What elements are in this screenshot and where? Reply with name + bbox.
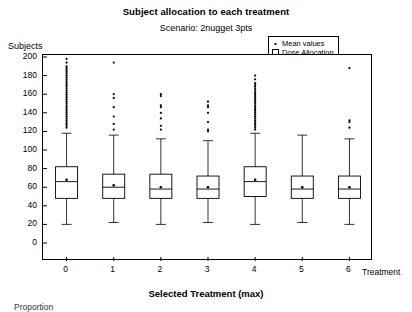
x-tick-6: 6 <box>338 264 358 274</box>
box-3 <box>197 101 219 223</box>
x-tick-2: 2 <box>150 264 170 274</box>
legend-label-mean: Mean values <box>282 39 325 48</box>
x-tick-3: 3 <box>197 264 217 274</box>
y-tick-0: 0 <box>13 237 37 247</box>
x-tick-0: 0 <box>56 264 76 274</box>
y-tick-60: 60 <box>13 181 37 191</box>
box-1 <box>103 61 125 222</box>
x-tick-5: 5 <box>291 264 311 274</box>
y-tick-200: 200 <box>13 51 37 61</box>
box-0 <box>56 58 78 225</box>
y-tick-40: 40 <box>13 200 37 210</box>
mean-dot-icon: • <box>272 40 279 48</box>
y-tick-140: 140 <box>13 107 37 117</box>
x-tick-4: 4 <box>244 264 264 274</box>
chart-title: Subject allocation to each treatment <box>0 6 412 17</box>
footnote: Proportion <box>14 302 53 312</box>
plot-area <box>42 54 372 260</box>
boxplot-svg <box>43 55 373 261</box>
box-2 <box>150 93 172 224</box>
y-tick-20: 20 <box>13 218 37 228</box>
x-axis-label: Selected Treatment (max) <box>0 288 412 299</box>
y-tick-80: 80 <box>13 163 37 173</box>
x-tick-1: 1 <box>103 264 123 274</box>
chart-subtitle: Scenario: 2nugget 3pts <box>0 23 412 33</box>
y-axis-label: Subjects <box>8 41 43 51</box>
y-tick-160: 160 <box>13 88 37 98</box>
y-tick-100: 100 <box>13 144 37 154</box>
box-5 <box>291 135 313 222</box>
box-4 <box>244 75 266 225</box>
y-tick-120: 120 <box>13 125 37 135</box>
box-6 <box>338 67 360 224</box>
legend-item-mean: • Mean values <box>272 39 334 48</box>
y-tick-180: 180 <box>13 70 37 80</box>
x-axis-name: Treatment <box>362 267 400 277</box>
